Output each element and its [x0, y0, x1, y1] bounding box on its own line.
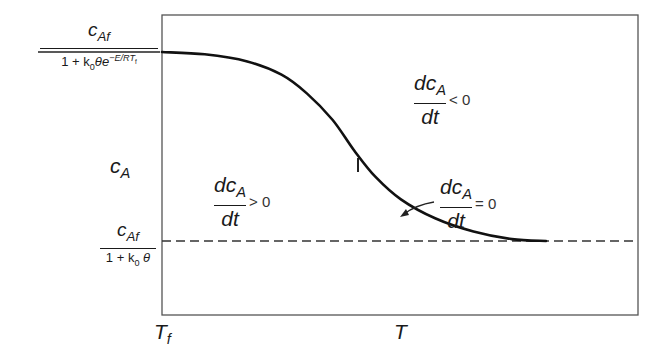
- region-upper-label: dcA dt < 0: [414, 72, 470, 127]
- bottom-den-suffix: θ: [139, 250, 150, 265]
- lower-num-sub: A: [236, 184, 246, 200]
- upper-num: dc: [414, 71, 436, 94]
- top-num-sub: Af: [97, 29, 110, 44]
- y-axis-main: c: [110, 154, 121, 177]
- top-den-sup: −E/RT: [109, 53, 135, 63]
- region-lower-label: dcA dt > 0: [214, 174, 270, 229]
- null-num-sub: A: [462, 186, 472, 202]
- arrow-head-icon: [400, 209, 409, 217]
- x-axis-label: T: [394, 320, 407, 344]
- y-axis-sub: A: [121, 165, 131, 181]
- top-den-mid: θe: [95, 54, 109, 69]
- nullcline-label: dcA dt = 0: [440, 176, 496, 231]
- lower-den: dt: [214, 208, 246, 229]
- x-origin-main: T: [154, 320, 167, 343]
- upper-relation: < 0: [449, 91, 470, 108]
- null-relation: = 0: [475, 195, 496, 212]
- top-den-prefix: 1 + k: [61, 54, 90, 69]
- null-num: dc: [440, 175, 462, 198]
- bottom-level-label: cAf 1 + k0 θ: [100, 220, 156, 270]
- lower-num: dc: [214, 173, 236, 196]
- x-axis-origin-label: Tf: [154, 320, 171, 347]
- top-level-label: cAf 1 + k0θe−E/RTf: [40, 20, 158, 75]
- x-origin-sub: f: [167, 331, 171, 347]
- plot-frame: [162, 15, 638, 315]
- y-axis-label: cA: [110, 154, 130, 181]
- upper-den: dt: [414, 106, 446, 127]
- top-den-sup-sub: f: [135, 58, 137, 65]
- upper-num-sub: A: [436, 82, 446, 98]
- null-den: dt: [440, 210, 472, 231]
- bottom-num-sub: Af: [126, 229, 139, 244]
- bottom-den-prefix: 1 + k: [106, 250, 135, 265]
- lower-relation: > 0: [249, 193, 270, 210]
